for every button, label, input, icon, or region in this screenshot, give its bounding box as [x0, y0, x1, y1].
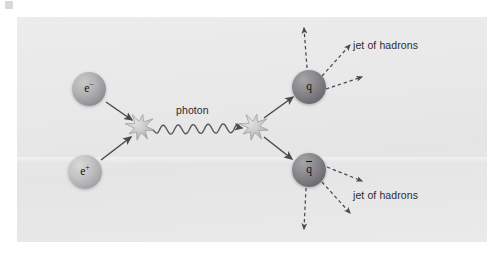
photon-label: photon: [176, 105, 209, 117]
particle-label-positron: e+: [80, 166, 90, 178]
hadron-jet-arrow: [327, 167, 362, 181]
particle-label-antiquark: q: [306, 164, 312, 176]
particle-antiquark: q: [292, 153, 326, 187]
physics-diagram-figure: e− e+ q q photon jet of hadrons jet of h…: [0, 0, 504, 257]
photon-wavy-line: [152, 124, 242, 134]
hadron-jet-arrow: [304, 188, 306, 229]
antiquark-outgoing-arrow: [264, 137, 292, 159]
electron-incoming-arrow: [106, 102, 132, 120]
photon-line-group: [152, 124, 242, 134]
particle-electron: e−: [72, 72, 106, 106]
quark-outgoing-arrow: [264, 97, 293, 118]
particle-quark: q: [292, 70, 326, 104]
positron-incoming-arrow: [101, 137, 131, 160]
hadron-jet-arrow: [322, 182, 350, 213]
hadron-jet-arrow: [322, 45, 350, 76]
antiparticle-overbar: [306, 161, 312, 162]
particle-label-quark: q: [306, 81, 312, 93]
hadron-jet-arrow: [304, 28, 307, 68]
pair-production-vertex: [239, 114, 268, 140]
jet-of-hadrons-label-bottom: jet of hadrons: [353, 190, 418, 202]
particle-label-electron: e−: [84, 83, 94, 95]
hadron-jet-arrow: [326, 77, 362, 89]
particle-positron: e+: [68, 155, 102, 189]
jet-of-hadrons-label-top: jet of hadrons: [353, 40, 418, 52]
diagram-canvas: [0, 0, 504, 257]
